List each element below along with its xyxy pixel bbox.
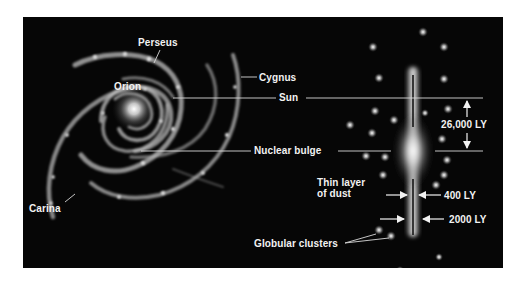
label-carina: Carina: [29, 203, 61, 214]
galaxy-illustration: [23, 17, 503, 268]
label-thin-layer-of-dust: Thin layer of dust: [317, 177, 365, 199]
label-cygnus: Cygnus: [259, 72, 296, 83]
galaxy-diagram-panel: Perseus Orion Cygnus Carina Sun Nuclear …: [23, 17, 503, 268]
label-26000-ly: 26,000 LY: [441, 119, 487, 130]
label-perseus: Perseus: [138, 37, 178, 48]
label-orion: Orion: [114, 81, 141, 92]
label-globular-clusters: Globular clusters: [254, 238, 338, 249]
label-thin-layer-line1: Thin layer: [317, 177, 365, 188]
label-sun: Sun: [279, 92, 298, 103]
label-400-ly: 400 LY: [444, 190, 476, 201]
label-2000-ly: 2000 LY: [449, 214, 487, 225]
galactic-core: [112, 87, 156, 131]
label-nuclear-bulge: Nuclear bulge: [254, 145, 321, 156]
label-thin-layer-line2: of dust: [317, 188, 365, 199]
spiral-galaxy: [49, 55, 239, 217]
